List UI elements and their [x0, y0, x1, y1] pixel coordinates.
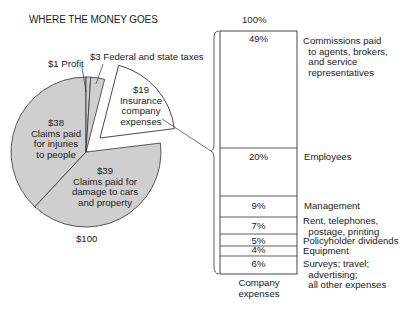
bar-pct-9: 9% — [220, 201, 297, 212]
label-damage: $39 Claims paid for damage to cars and p… — [70, 166, 140, 208]
bar-bottom-label: Company expenses — [228, 278, 290, 299]
bar-label-other: Surveys; travel; advertising; all other … — [303, 259, 386, 291]
label-expenses: $19 Insurance company expenses — [113, 85, 169, 127]
bar-top-label: 100% — [242, 15, 267, 26]
label-injuries: $38 Claims paid for injuries to people — [25, 118, 87, 160]
bar-label-rent: Rent, telephones, postage, printing — [303, 216, 379, 237]
bar-label-management: Management — [304, 201, 360, 212]
bar-pct-4: 4% — [220, 245, 297, 256]
bar-label-equipment: Equipment — [303, 246, 349, 257]
label-total: $100 — [76, 234, 97, 245]
bar-label-employees: Employees — [304, 152, 351, 163]
label-taxes: $3 Federal and state taxes — [90, 52, 204, 63]
label-profit: $1 Profit — [48, 59, 84, 70]
bar-label-commissions: Commissions paid to agents, brokers, and… — [303, 36, 388, 78]
bar-pct-6: 6% — [220, 259, 297, 270]
bar-pct-7: 7% — [220, 221, 297, 232]
bar-pct-49: 49% — [220, 34, 297, 45]
bar-pct-20: 20% — [220, 152, 297, 163]
brace — [211, 31, 219, 274]
